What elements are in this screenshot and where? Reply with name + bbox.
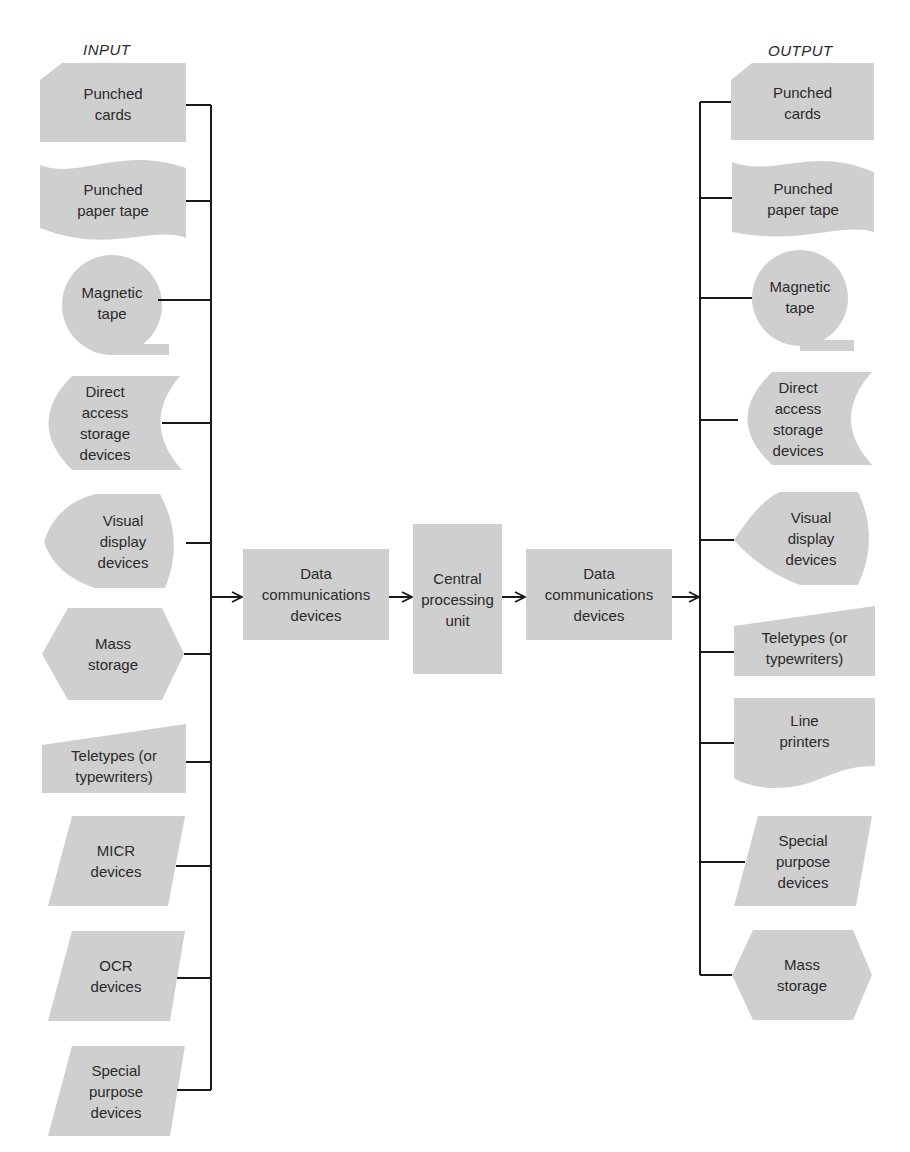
input-ocr-shape (48, 931, 185, 1021)
output-line-printers-shape (734, 698, 875, 788)
cpu-box (413, 524, 502, 674)
output-mass-storage-shape (732, 930, 872, 1020)
input-micr-shape (48, 816, 185, 906)
right-data-comm-box (526, 549, 672, 640)
output-magnetic-tape-shape (752, 250, 854, 351)
input-direct-access-storage-shape (49, 376, 183, 470)
output-direct-access-storage-shape (748, 372, 873, 465)
input-teletypes-shape (42, 724, 186, 793)
left-data-comm-box (243, 549, 389, 640)
output-paper-tape-shape (732, 161, 874, 237)
output-punched-cards-shape (731, 63, 874, 140)
input-heading: INPUT (83, 41, 131, 58)
input-mass-storage-shape (42, 608, 184, 700)
input-visual-display-shape (44, 494, 174, 588)
output-visual-display-shape (734, 492, 869, 585)
output-heading: OUTPUT (768, 42, 833, 59)
input-punched-cards-shape (40, 63, 186, 142)
input-paper-tape-shape (40, 160, 186, 240)
input-magnetic-tape-shape (62, 255, 169, 355)
output-special-purpose-shape (734, 816, 872, 906)
flowchart-canvas (0, 0, 910, 1152)
output-teletypes-shape (734, 606, 875, 676)
input-special-purpose-shape (48, 1046, 185, 1136)
